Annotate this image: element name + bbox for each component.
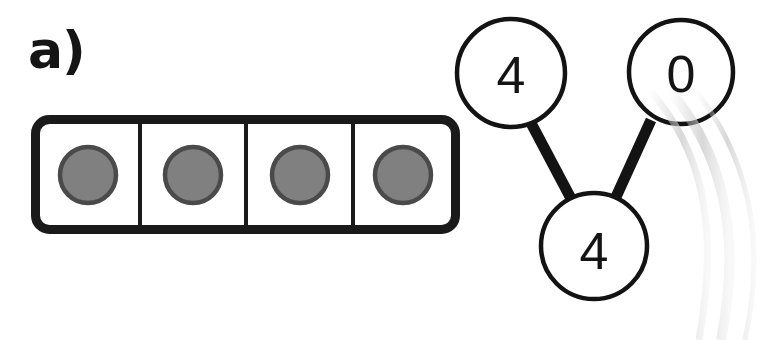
bond-part-left-node: 4 xyxy=(457,19,565,127)
bond-whole-node: 4 xyxy=(541,193,647,299)
counting-frame xyxy=(31,115,460,234)
counter-3 xyxy=(272,147,328,203)
bond-whole-value: 4 xyxy=(580,222,609,280)
counter-1 xyxy=(60,147,116,203)
counter-4 xyxy=(375,147,431,203)
bond-part-right-node: 0 xyxy=(629,20,733,124)
bond-part-right-value: 0 xyxy=(667,45,696,103)
bond-connector-left xyxy=(531,123,576,208)
number-bond: 4 0 4 xyxy=(446,8,746,313)
bond-part-left-value: 4 xyxy=(497,46,526,104)
part-label: a) xyxy=(28,24,85,76)
counter-2 xyxy=(165,147,221,203)
bond-connector-right xyxy=(611,120,651,208)
